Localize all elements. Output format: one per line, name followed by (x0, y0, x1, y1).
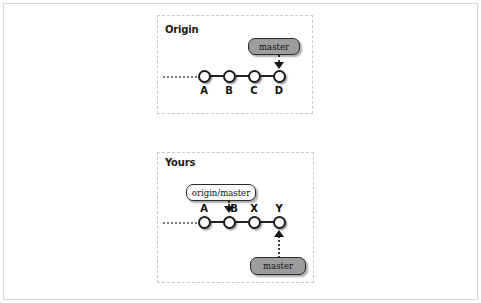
commit-node-origin-a[interactable] (198, 70, 211, 83)
group-title-origin: Origin (165, 24, 198, 35)
commit-label-origin-b: B (222, 85, 236, 96)
arrowhead-up-icon-yours-master (274, 230, 284, 237)
commit-node-yours-a[interactable] (198, 216, 211, 229)
commit-node-origin-d[interactable] (273, 70, 286, 83)
commit-node-yours-b[interactable] (223, 216, 236, 229)
commit-label-yours-y: Y (272, 203, 286, 214)
ref-pill-yours-origin-master[interactable]: origin/master (186, 184, 256, 201)
git-branch-diagram: Origin A B C D master Yours A B X Y orig… (0, 0, 481, 303)
ref-pill-origin-master[interactable]: master (248, 38, 300, 55)
commit-label-yours-a: A (197, 203, 211, 214)
commit-node-yours-x[interactable] (248, 216, 261, 229)
commit-node-origin-b[interactable] (223, 70, 236, 83)
arrowhead-down-icon-yours-origin-master (224, 206, 234, 213)
commit-node-origin-c[interactable] (248, 70, 261, 83)
commit-label-origin-a: A (197, 85, 211, 96)
commit-label-yours-x: X (247, 203, 261, 214)
commit-label-origin-c: C (247, 85, 261, 96)
pointer-line-yours-master (278, 236, 280, 258)
arrowhead-down-icon-origin-master (274, 62, 284, 69)
group-title-yours: Yours (165, 157, 195, 168)
ref-pill-yours-master[interactable]: master (250, 257, 306, 275)
commit-label-origin-d: D (272, 85, 286, 96)
commit-node-yours-y[interactable] (273, 216, 286, 229)
